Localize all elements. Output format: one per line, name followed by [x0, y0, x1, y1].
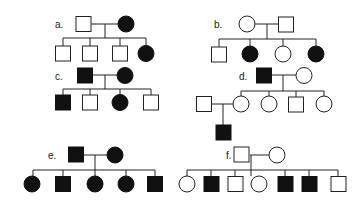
male-affected-symbol [216, 125, 231, 140]
female-affected-symbol [107, 147, 123, 163]
female-affected-symbol [24, 176, 40, 192]
male-affected-symbol [257, 68, 272, 83]
female-unaffected-symbol [233, 96, 249, 112]
male-unaffected-symbol [76, 17, 91, 32]
female-affected-symbol [308, 46, 324, 62]
male-affected-symbol [278, 177, 293, 192]
pedigree-label-e: e. [48, 150, 56, 161]
female-affected-symbol [118, 16, 134, 32]
pedigree-label-f: f. [226, 150, 232, 161]
male-affected-symbol [204, 177, 219, 192]
male-unaffected-symbol [331, 177, 346, 192]
male-unaffected-symbol [83, 46, 98, 61]
male-unaffected-symbol [279, 17, 294, 32]
female-unaffected-symbol [275, 46, 291, 62]
pedigree-label-c: c. [55, 71, 63, 82]
male-affected-symbol [56, 177, 71, 192]
female-unaffected-symbol [261, 96, 277, 112]
female-unaffected-symbol [251, 176, 267, 192]
male-affected-symbol [302, 177, 317, 192]
male-unaffected-symbol [234, 147, 249, 162]
pedigree-figure: a. b. c. [0, 0, 362, 201]
male-affected-symbol [56, 95, 71, 110]
pedigree-b: b. [212, 16, 325, 62]
female-unaffected-symbol [296, 68, 312, 84]
female-unaffected-symbol [269, 147, 285, 163]
male-unaffected-symbol [289, 97, 304, 112]
female-unaffected-symbol [316, 96, 332, 112]
pedigree-label-d: d. [239, 71, 247, 82]
male-unaffected-symbol [228, 177, 243, 192]
pedigree-e: e. [24, 147, 163, 192]
male-affected-symbol [148, 177, 163, 192]
male-affected-symbol [69, 147, 84, 162]
male-unaffected-symbol [144, 95, 159, 110]
female-unaffected-symbol [239, 16, 255, 32]
female-affected-symbol [117, 68, 133, 84]
pedigree-d: d. [197, 68, 333, 141]
male-unaffected-symbol [113, 46, 128, 61]
female-affected-symbol [138, 46, 154, 62]
pedigree-label-a: a. [55, 19, 63, 30]
male-unaffected-symbol [83, 95, 98, 110]
female-affected-symbol [87, 176, 103, 192]
male-affected-symbol [78, 68, 93, 83]
pedigree-c: c. [55, 68, 159, 111]
male-unaffected-symbol [197, 97, 212, 112]
female-unaffected-symbol [179, 176, 195, 192]
pedigree-f: f. [179, 147, 346, 192]
female-affected-symbol [242, 46, 258, 62]
male-unaffected-symbol [56, 46, 71, 61]
pedigree-a: a. [55, 16, 154, 62]
female-affected-symbol [112, 95, 128, 111]
pedigree-label-b: b. [214, 19, 222, 30]
male-unaffected-symbol [212, 47, 227, 62]
female-affected-symbol [118, 176, 134, 192]
